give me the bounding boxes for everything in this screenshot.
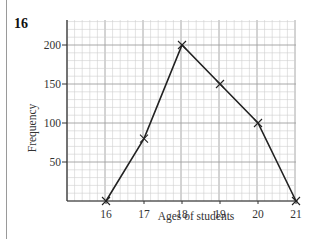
x-tick-label: 17 [138, 208, 150, 220]
frequency-polygon-chart: 50100150200161718192021 Ages of students… [0, 0, 314, 239]
y-tick-label: 200 [44, 39, 62, 51]
y-tick-label: 150 [44, 78, 62, 90]
y-axis-title: Frequency [26, 103, 39, 152]
x-tick-label: 21 [290, 208, 302, 220]
y-tick-label: 100 [44, 117, 62, 129]
x-tick-label: 20 [252, 208, 264, 220]
x-axis-title: Ages of students [158, 210, 235, 223]
x-tick-label: 16 [100, 208, 112, 220]
y-tick-label: 50 [50, 156, 62, 168]
